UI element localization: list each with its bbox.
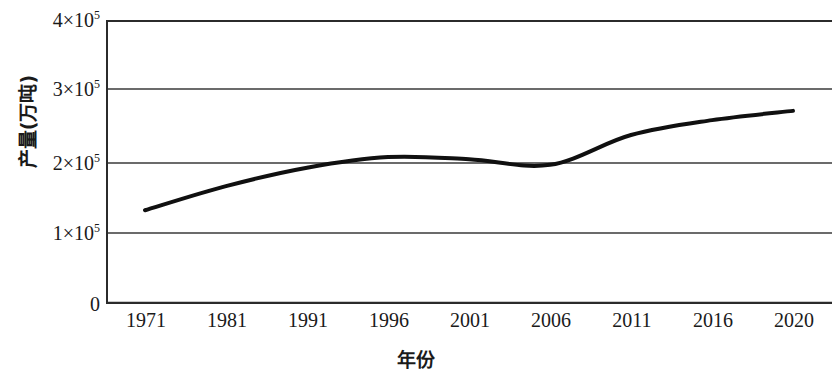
y-tick-label-3e5: 3×105 [24,79,100,99]
y-tick-mantissa-3e5: 3×10 [53,78,94,100]
y-tick-mantissa-2e5: 2×10 [53,152,94,174]
x-tick-label-2001: 2001 [425,307,515,333]
axis-frame [106,20,832,304]
data-line-series-production [145,111,793,210]
y-tick-label-4e5: 4×105 [24,10,100,30]
x-tick-label-1971: 1971 [101,307,191,333]
plot-area [106,20,832,304]
x-tick-label-2020: 2020 [749,307,832,333]
y-tick-label-2e5: 2×105 [24,153,100,173]
x-axis-title: 年份 [0,345,832,372]
y-tick-exponent-2e5: 5 [94,151,100,165]
line-chart-figure: 产量(万吨) 4×105 3×105 2×105 1×105 0 [0,0,832,377]
y-tick-exponent-3e5: 5 [94,77,100,91]
chart-canvas [106,20,832,304]
x-tick-label-1996: 1996 [344,307,434,333]
y-tick-label-1e5: 1×105 [24,223,100,243]
x-axis-tick-labels: 1971 1981 1991 1996 2001 2006 2011 2016 … [0,307,832,341]
x-tick-label-2006: 2006 [506,307,596,333]
y-tick-mantissa-4e5: 4×10 [53,9,94,31]
x-tick-label-2016: 2016 [668,307,758,333]
y-tick-mantissa-1e5: 1×10 [53,222,94,244]
x-tick-label-1991: 1991 [263,307,353,333]
y-tick-exponent-4e5: 5 [94,8,100,22]
y-tick-exponent-1e5: 5 [94,221,100,235]
x-tick-label-1981: 1981 [182,307,272,333]
x-tick-label-2011: 2011 [587,307,677,333]
